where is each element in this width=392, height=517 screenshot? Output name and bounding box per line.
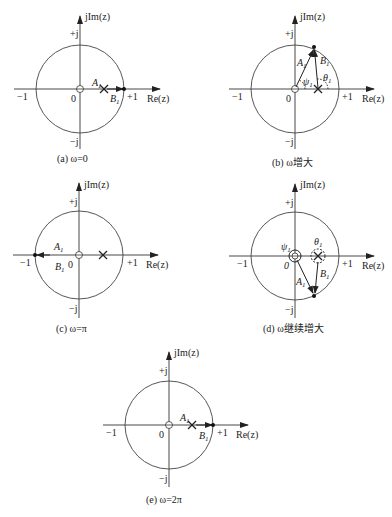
minus-j-label: −j [285,304,293,315]
caption-d: (d) ω继续增大 [263,322,324,335]
a1-label: A1 [91,77,102,90]
minus-j-label: −j [69,303,77,314]
vector-b1 [315,50,319,88]
minus-one-label: −1 [20,257,31,268]
origin-label: 0 [71,93,76,104]
b1-label: B1 [320,55,330,68]
plus-j-label: +j [159,365,167,376]
plus-j-label: +j [285,197,293,208]
minus-j-label: −j [285,136,293,147]
minus-one-label: −1 [17,91,28,102]
point-on-circle [33,253,37,257]
point-on-circle [312,45,316,49]
origin-label: 0 [159,429,164,440]
real-axis-label: Re(z) [236,429,258,441]
a1-label: A1 [296,57,307,70]
panel-a: jIm(z) +j −j −1 +1 Re(z) 0 A1 B1 (a) ω=0 [14,11,169,165]
theta1-label: θ1 [323,72,331,85]
imag-axis-label: jIm(z) [173,347,199,359]
imag-axis-label: jIm(z) [83,179,109,191]
real-axis-label: Re(z) [146,259,168,271]
real-axis-label: Re(z) [362,260,384,272]
a1-label: A1 [179,412,190,425]
panel-e: jIm(z) +j −j −1 +1 Re(z) 0 A1 B1 (e) ω=2… [103,347,258,506]
pole-zero-diagrams: jIm(z) +j −j −1 +1 Re(z) 0 A1 B1 (a) ω=0… [0,0,392,517]
imag-axis-label: jIm(z) [299,11,325,23]
point-on-circle [211,423,215,427]
caption-a: (a) ω=0 [57,153,88,165]
b1-label: B1 [320,268,330,281]
b1-label: B1 [199,430,209,443]
vector-b1 [315,262,318,293]
origin-label: 0 [284,260,289,271]
real-axis-label: Re(z) [362,93,384,105]
plus-j-label: +j [69,196,77,207]
point-on-circle [312,294,316,298]
theta1-label: θ1 [314,236,322,249]
panel-b: jIm(z) +j −j −1 +1 Re(z) 0 A1 B1 ψ1 θ1 (… [229,11,384,169]
b1-label: B1 [110,93,120,106]
a1-label: A1 [53,241,64,254]
caption-c: (c) ω=π [56,323,87,335]
plus-one-label: +1 [342,91,353,102]
caption-e: (e) ω=2π [146,494,182,506]
panel-d: jIm(z) +j −j −1 +1 Re(z) 0 ψ1 θ1 A1 B1 (… [229,179,384,335]
plus-one-label: +1 [127,257,138,268]
plus-j-label: +j [70,28,78,39]
minus-one-label: −1 [232,91,243,102]
origin-label: 0 [286,93,291,104]
psi1-label: ψ1 [281,241,291,254]
plus-one-label: +1 [342,258,353,269]
imag-axis-label: jIm(z) [299,179,325,191]
real-axis-label: Re(z) [147,93,169,105]
psi1-label: ψ1 [303,76,313,89]
caption-b: (b) ω增大 [272,156,313,169]
a1-label: A1 [295,276,306,289]
b1-label: B1 [55,261,65,274]
plus-one-label: +1 [217,427,228,438]
minus-j-label: −j [159,473,167,484]
minus-one-label: −1 [106,427,117,438]
point-on-circle [122,87,126,91]
panel-c: jIm(z) +j −j −1 +1 Re(z) 0 A1 B1 (c) ω=π [13,179,168,335]
imag-axis-label: jIm(z) [84,11,110,23]
plus-j-label: +j [285,28,293,39]
minus-one-label: −1 [237,258,248,269]
origin-label: 0 [68,259,73,270]
plus-one-label: +1 [127,91,138,102]
minus-j-label: −j [70,136,78,147]
